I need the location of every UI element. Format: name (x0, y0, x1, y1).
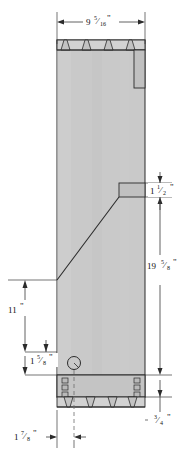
dado-rect (134, 50, 145, 88)
panel-body-group (57, 40, 145, 397)
drawing-svg: 9 5 ⁄ 16 " 1 1 ⁄ 2 " 19 5 ⁄ 8 " (0, 0, 187, 467)
finger-joint-left-2 (62, 385, 68, 390)
panel-grain-1 (57, 40, 71, 397)
notch-rect (119, 183, 145, 197)
dim-label-botoff-mark: " (33, 428, 37, 438)
finger-joint-right-2 (134, 385, 140, 390)
dim-label-overall-mark: " (173, 257, 177, 267)
dim-label-left-whole: 11 (8, 305, 17, 315)
dim-label-botoff-whole: 1 (14, 432, 19, 442)
dim-label-overall-whole: 19 (147, 261, 157, 271)
dim-label-width-top-whole: 9 (86, 17, 91, 27)
dim-label-knob-whole: 1 (30, 356, 35, 366)
right-side-dado-groove (134, 50, 145, 88)
dim-label-notch-whole: 1 (150, 186, 155, 196)
technical-drawing-canvas: 9 5 ⁄ 16 " 1 1 ⁄ 2 " 19 5 ⁄ 8 " (0, 0, 187, 467)
finger-joint-left-3 (62, 392, 68, 397)
bottom-dovetail-pins (57, 397, 145, 407)
dim-label-width-top-den: 16 (100, 21, 106, 27)
dim-label-knob-mark: " (49, 352, 53, 362)
finger-joint-left-1 (62, 378, 68, 383)
dim-label-botoff-den: 8 (27, 436, 30, 442)
right-side-notch (119, 183, 145, 197)
dim-label-overall-den: 8 (167, 265, 170, 271)
panel-grain-3 (120, 40, 129, 397)
dim-label-thick-mark: " (167, 412, 171, 422)
bottom-rail-assembly (57, 375, 145, 397)
dim-label-width-top-mark: " (107, 13, 111, 23)
finger-joint-right-3 (134, 392, 140, 397)
knob-hole-circle (68, 357, 81, 370)
dim-label-notch-den: 2 (163, 190, 166, 196)
panel-grain-2 (92, 40, 102, 397)
dim-label-left-mark: " (20, 301, 24, 311)
top-dovetail-pins (57, 40, 145, 50)
finger-joint-right-1 (134, 378, 140, 383)
bottom-box-rect (57, 375, 145, 397)
dim-label-thick-den: 4 (160, 420, 163, 426)
dim-label-knob-den: 8 (43, 360, 46, 366)
dim-label-notch-mark: " (170, 182, 174, 192)
